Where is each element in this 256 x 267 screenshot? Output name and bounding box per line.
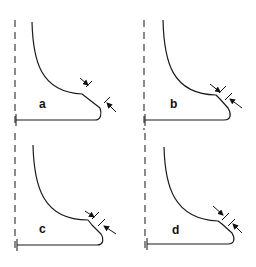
arrow-in-icon [85,211,94,217]
panel-label-b: b [170,98,177,110]
profile-curve [17,145,103,245]
profile-curve [16,22,101,120]
arrow-in-icon [233,224,242,233]
panel-b [144,20,242,130]
arrow-in-icon [210,84,220,92]
arrow-in-icon [80,78,88,85]
profile-curve [147,147,234,244]
arrow-in-icon [230,99,242,108]
panel-c [15,133,116,252]
arrow-in-icon [213,206,223,215]
arrow-in-icon [104,226,116,234]
arrow-in-icon [107,103,116,112]
thickness-dimension [210,84,242,108]
panel-a [15,20,116,128]
panel-label-d: d [172,224,179,236]
panel-d [145,133,242,252]
panel-label-a: a [39,98,46,110]
panel-label-c: c [39,223,46,235]
profile-curve [145,20,230,120]
diagram-figure: a b c d [0,0,256,267]
